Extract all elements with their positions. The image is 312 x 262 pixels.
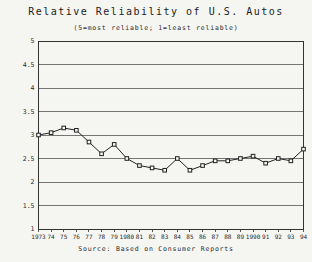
chart-svg: 54.543.532.521.5119737475767778791980818…	[0, 0, 312, 262]
x-axis-tick-label: 94	[300, 233, 308, 240]
y-axis-tick-label: 2.5	[23, 155, 35, 163]
data-point-marker	[49, 131, 53, 135]
data-point-marker	[112, 143, 116, 147]
chart-source-note: Source: Based on Consumer Reports	[0, 245, 312, 253]
x-axis-tick-label: 93	[287, 233, 295, 240]
data-point-marker	[138, 164, 142, 168]
data-point-marker	[100, 152, 104, 156]
data-point-marker	[87, 140, 91, 144]
x-axis-tick-label: 1990	[246, 233, 261, 240]
data-point-marker	[75, 129, 79, 133]
x-axis-tick-label: 75	[60, 233, 68, 240]
x-axis-tick-label: 87	[212, 233, 220, 240]
data-point-marker	[264, 161, 268, 165]
data-point-marker	[251, 154, 255, 158]
y-axis-tick-label: 4.5	[23, 61, 35, 69]
y-axis-tick-label: 1.5	[23, 202, 35, 210]
x-axis-tick-label: 82	[148, 233, 156, 240]
data-point-marker	[163, 168, 167, 172]
y-axis-tick-label: 5	[31, 37, 35, 45]
data-point-marker	[176, 157, 180, 161]
x-axis-tick-label: 85	[186, 233, 194, 240]
data-point-marker	[213, 159, 217, 163]
x-axis-tick-label: 77	[85, 233, 93, 240]
data-point-marker	[188, 168, 192, 172]
x-axis-tick-label: 89	[237, 233, 245, 240]
data-point-marker	[62, 126, 66, 130]
y-axis-tick-label: 2	[31, 178, 35, 186]
x-axis-tick-label: 92	[275, 233, 283, 240]
data-point-marker	[201, 164, 205, 168]
data-point-marker	[302, 147, 306, 151]
data-point-marker	[226, 159, 230, 163]
x-axis-tick-label: 81	[136, 233, 144, 240]
x-axis-tick-label: 91	[262, 233, 270, 240]
data-point-marker	[125, 157, 129, 161]
x-axis-tick-label: 84	[174, 233, 182, 240]
data-point-marker	[150, 166, 154, 170]
x-axis-tick-label: 1973	[31, 233, 46, 240]
x-axis-tick-label: 86	[199, 233, 207, 240]
x-axis-tick-label: 88	[224, 233, 232, 240]
data-point-marker	[289, 159, 293, 163]
data-point-marker	[37, 133, 41, 137]
x-axis-tick-label: 76	[73, 233, 81, 240]
x-axis-tick-label: 78	[98, 233, 106, 240]
x-axis-tick-label: 79	[111, 233, 119, 240]
y-axis-tick-label: 3	[31, 131, 35, 139]
y-axis-tick-label: 4	[31, 84, 35, 92]
x-axis-tick-label: 1980	[120, 233, 135, 240]
y-axis-tick-label: 3.5	[23, 108, 35, 116]
chart-figure: Relative Reliability of U.S. Autos (5=mo…	[0, 0, 312, 262]
data-point-marker	[276, 157, 280, 161]
x-axis-tick-label: 83	[161, 233, 169, 240]
x-axis-tick-label: 74	[48, 233, 56, 240]
data-point-marker	[239, 157, 243, 161]
